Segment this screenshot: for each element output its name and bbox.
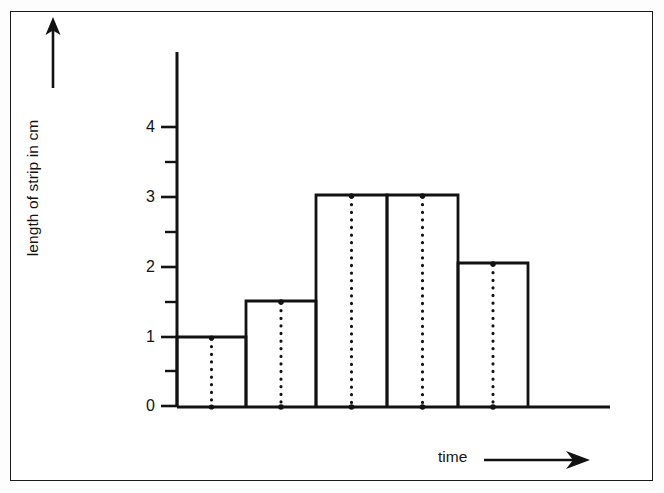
y-axis-label-text: length of strip in cm (24, 120, 42, 257)
histogram-plot (0, 0, 664, 493)
y-tick-label-4: 4 (133, 118, 155, 136)
y-tick-label-0: 0 (133, 397, 155, 415)
y-axis-direction-arrow (46, 17, 61, 88)
y-axis-label: length of strip in cm (20, 93, 46, 283)
y-tick-label-2: 2 (133, 258, 155, 276)
chart-figure: length of strip in cm 4 3 2 1 0 time (0, 0, 664, 493)
y-axis-major-ticks (161, 127, 177, 406)
y-tick-label-1: 1 (133, 328, 155, 346)
x-axis-direction-arrow (484, 451, 590, 469)
x-axis-label-text: time (438, 448, 467, 466)
y-tick-label-3: 3 (133, 188, 155, 206)
